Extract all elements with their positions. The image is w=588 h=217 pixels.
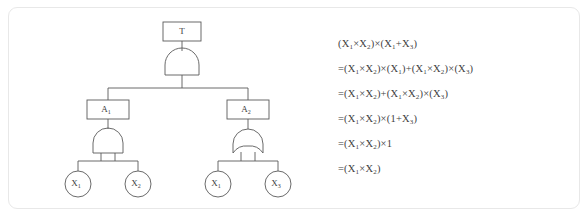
equation-line: =(X1×X2)+(X1×X2)×(X3)	[338, 83, 568, 108]
node-a1-label: A1	[101, 104, 111, 115]
equation-line: (X1×X2)×(X1+X3)	[338, 33, 568, 58]
node-basic-x1-right-label: X1	[211, 178, 221, 189]
fault-tree-panel: T A1 A2 X1 X2 X1 X3	[8, 7, 308, 209]
node-basic-x1-left-label: X1	[71, 178, 81, 189]
gate-a1-and-shape	[93, 128, 123, 153]
equation-line: =(X1×X2)×1	[338, 133, 568, 158]
node-basic-x3-right-label: X3	[271, 178, 281, 189]
fault-tree-svg: T A1 A2 X1 X2 X1 X3	[8, 7, 308, 209]
node-top-event-label: T	[179, 26, 185, 36]
node-basic-x2-left-label: X2	[131, 178, 141, 189]
node-a2-label: A2	[241, 104, 251, 115]
equation-line: =(X1×X2)×(1+X3)	[338, 108, 568, 133]
figure-root: T A1 A2 X1 X2 X1 X3 (X1×X2)×(X1+X3) =(X1…	[0, 0, 588, 217]
equation-line: =(X1×X2)×(X1)+(X1×X2)×(X3)	[338, 58, 568, 83]
gate-a2-or-shape	[233, 129, 263, 153]
boolean-reduction-list: (X1×X2)×(X1+X3) =(X1×X2)×(X1)+(X1×X2)×(X…	[338, 33, 568, 183]
equation-line: =(X1×X2)	[338, 158, 568, 183]
gate-top-and-shape	[165, 48, 199, 75]
